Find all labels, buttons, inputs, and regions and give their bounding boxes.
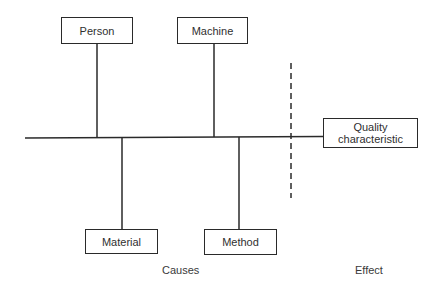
effect-label-line2: characteristic	[338, 133, 403, 145]
causes-caption: Causes	[162, 264, 199, 276]
cause-box-person: Person	[61, 17, 133, 44]
cause-box-material: Material	[85, 229, 158, 254]
cause-label-machine: Machine	[192, 25, 234, 37]
fishbone-diagram: Person Machine Material Method Quality c…	[0, 0, 436, 285]
cause-box-method: Method	[204, 229, 277, 255]
cause-label-person: Person	[80, 25, 115, 37]
effect-caption: Effect	[355, 264, 383, 276]
cause-label-method: Method	[222, 236, 259, 248]
cause-label-material: Material	[102, 236, 141, 248]
effect-label-line1: Quality	[353, 121, 387, 133]
main-spine	[25, 137, 323, 139]
effect-box-quality-characteristic: Quality characteristic	[323, 118, 418, 148]
cause-box-machine: Machine	[177, 17, 248, 44]
